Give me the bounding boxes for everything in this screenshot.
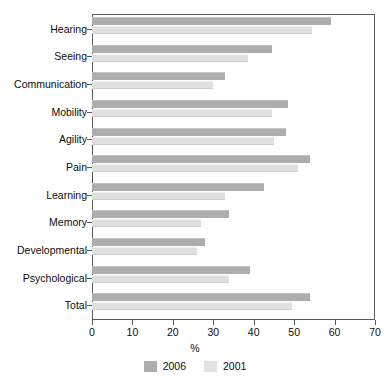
y-axis-tick: [87, 305, 92, 306]
y-axis-tick: [87, 112, 92, 113]
y-axis-tick: [87, 222, 92, 223]
y-axis-tick: [87, 139, 92, 140]
x-axis-tick-label: 40: [234, 326, 274, 338]
bar-group: [92, 126, 375, 154]
y-axis-label: Pain: [66, 161, 87, 173]
legend-label-2006: 2006: [163, 360, 186, 372]
y-axis-label: Learning: [46, 189, 87, 201]
bar-2001: [92, 137, 274, 145]
y-axis-label: Communication: [14, 78, 87, 90]
bar-group: [92, 291, 375, 319]
y-axis-label: Total: [65, 299, 87, 311]
x-axis-title: %: [0, 342, 390, 354]
bar-2006: [92, 210, 229, 218]
bar-2001: [92, 109, 272, 117]
x-axis-tick-label: 10: [112, 326, 152, 338]
bar-2001: [92, 26, 312, 34]
bar-group: [92, 98, 375, 126]
x-axis-tick-label: 50: [274, 326, 314, 338]
y-axis-label: Memory: [49, 216, 87, 228]
bar-group: [92, 264, 375, 292]
legend-swatch-2001: [204, 361, 217, 372]
x-axis-tick-label: 20: [153, 326, 193, 338]
bar-2001: [92, 219, 201, 227]
y-axis-tick: [87, 29, 92, 30]
y-axis-label: Hearing: [50, 23, 87, 35]
x-axis-tick: [335, 320, 336, 325]
chart-legend: 2006 2001: [0, 360, 390, 372]
bar-2001: [92, 81, 213, 89]
y-axis-label: Agility: [59, 133, 87, 145]
bar-2006: [92, 238, 205, 246]
y-axis-tick: [87, 84, 92, 85]
x-axis-tick: [173, 320, 174, 325]
bar-2006: [92, 72, 225, 80]
x-axis-tick: [294, 320, 295, 325]
legend-item-2001: 2001: [204, 360, 246, 372]
bar-2001: [92, 164, 298, 172]
bar-2006: [92, 45, 272, 53]
bar-2006: [92, 266, 250, 274]
bars-layer: [92, 15, 375, 319]
y-axis-tick: [87, 56, 92, 57]
bar-group: [92, 70, 375, 98]
y-axis-label: Mobility: [51, 106, 87, 118]
bar-2001: [92, 302, 292, 310]
x-axis-tick: [213, 320, 214, 325]
x-axis-tick-label: 30: [193, 326, 233, 338]
legend-label-2001: 2001: [223, 360, 246, 372]
bar-group: [92, 15, 375, 43]
x-axis-tick-label: 60: [315, 326, 355, 338]
y-axis-label: Developmental: [17, 244, 87, 256]
y-axis-tick: [87, 250, 92, 251]
x-axis-tick: [254, 320, 255, 325]
legend-swatch-2006: [144, 361, 157, 372]
bar-group: [92, 43, 375, 71]
bar-2006: [92, 183, 264, 191]
bar-2006: [92, 17, 331, 25]
bar-group: [92, 153, 375, 181]
bar-2006: [92, 155, 310, 163]
bar-2001: [92, 275, 229, 283]
bar-2006: [92, 100, 288, 108]
y-axis-tick: [87, 195, 92, 196]
y-axis-tick: [87, 278, 92, 279]
x-axis-tick-label: 70: [355, 326, 390, 338]
x-axis-tick: [92, 320, 93, 325]
bar-chart: HearingSeeingCommunicationMobilityAgilit…: [0, 0, 390, 383]
bar-2006: [92, 293, 310, 301]
y-axis-tick: [87, 167, 92, 168]
bar-2001: [92, 54, 248, 62]
bar-group: [92, 181, 375, 209]
bar-group: [92, 208, 375, 236]
bar-2006: [92, 128, 286, 136]
x-axis-tick-label: 0: [72, 326, 112, 338]
y-axis-label: Seeing: [54, 50, 87, 62]
bar-2001: [92, 247, 197, 255]
bar-group: [92, 236, 375, 264]
y-axis-label: Psychological: [23, 272, 87, 284]
x-axis-tick: [375, 320, 376, 325]
legend-item-2006: 2006: [144, 360, 186, 372]
x-axis-tick: [132, 320, 133, 325]
bar-2001: [92, 192, 225, 200]
